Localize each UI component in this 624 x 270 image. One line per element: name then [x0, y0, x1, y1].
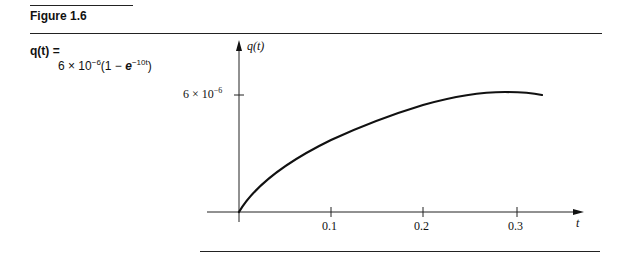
bottom-rule — [200, 251, 600, 252]
x-tick-label-0.1: 0.1 — [322, 219, 337, 233]
q-curve — [239, 92, 542, 212]
x-tick-label-0.2: 0.2 — [414, 219, 429, 233]
y-axis-label: q(t) — [247, 39, 264, 53]
x-tick-label-0.3: 0.3 — [508, 219, 523, 233]
chart: q(t) 6 × 10−6 t 0.1 0.2 0.3 — [0, 0, 624, 270]
x-axis-arrow-icon — [573, 209, 584, 215]
y-tick-label: 6 × 10−6 — [183, 86, 222, 101]
y-axis-arrow-icon — [236, 40, 242, 51]
x-axis-label: t — [576, 216, 580, 230]
